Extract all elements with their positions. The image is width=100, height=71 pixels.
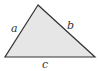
triangle-diagram: a b c [0, 0, 100, 71]
triangle-shape [5, 5, 95, 57]
side-label-c: c [42, 58, 48, 71]
side-label-b: b [67, 19, 74, 32]
side-label-a: a [11, 22, 18, 35]
